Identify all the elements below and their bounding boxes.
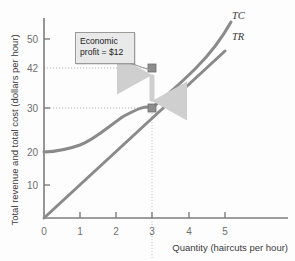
economic-profit-callout: Economic profit = $12 bbox=[75, 32, 135, 64]
x-axis-title: Quantity (haircuts per hour) bbox=[172, 242, 288, 253]
marker-tr-point bbox=[148, 64, 156, 72]
chart-container: 50 42 30 20 10 0 1 2 3 4 5 Total revenue… bbox=[0, 0, 295, 261]
y-tick-label-50: 50 bbox=[27, 34, 39, 45]
y-axis-title: Total revenue and total cost (dollars pe… bbox=[9, 34, 20, 225]
x-tick-label-5: 5 bbox=[222, 226, 228, 237]
callout-line-2: profit = $12 bbox=[80, 47, 130, 58]
x-tick-label-2: 2 bbox=[113, 226, 119, 237]
x-tick-label-3: 3 bbox=[149, 226, 155, 237]
tr-curve bbox=[44, 51, 225, 218]
x-tick-label-1: 1 bbox=[77, 226, 83, 237]
marker-tc-point bbox=[148, 104, 156, 112]
y-tick-label-20: 20 bbox=[27, 147, 39, 158]
x-tick-label-0: 0 bbox=[41, 226, 47, 237]
chart-svg: 50 42 30 20 10 0 1 2 3 4 5 Total revenue… bbox=[0, 0, 295, 261]
y-tick-label-42: 42 bbox=[27, 63, 39, 74]
tc-curve-label: TC bbox=[232, 10, 246, 21]
callout-line-1: Economic bbox=[80, 36, 130, 47]
x-tick-label-4: 4 bbox=[186, 226, 192, 237]
y-tick-label-10: 10 bbox=[27, 180, 39, 191]
tr-curve-label: TR bbox=[232, 31, 245, 42]
y-tick-label-30: 30 bbox=[27, 103, 39, 114]
